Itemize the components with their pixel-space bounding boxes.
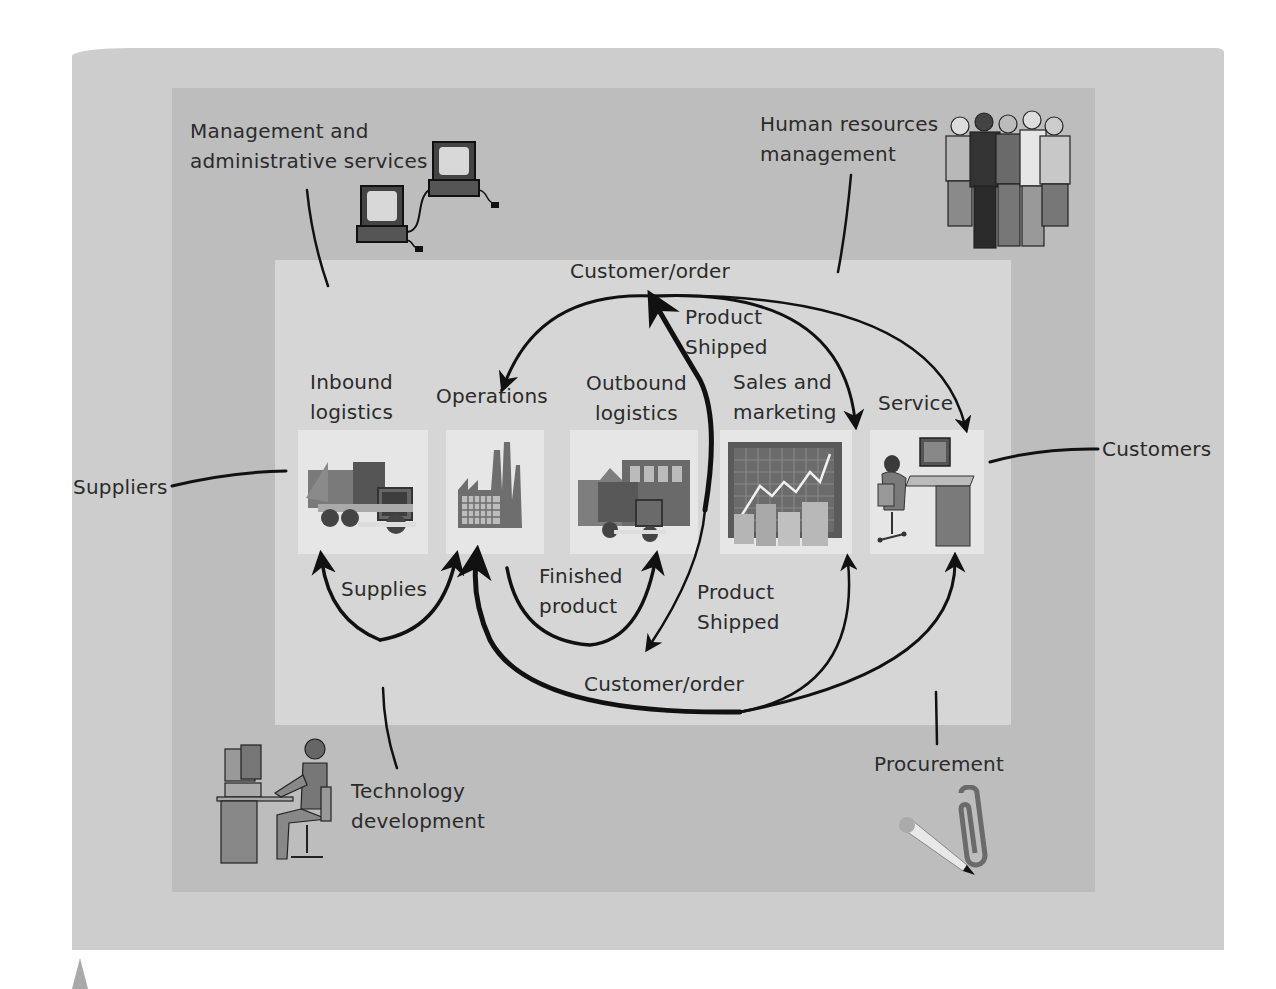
- arrow-order-to-sales-bottom: [740, 562, 849, 712]
- connector-technology: [383, 688, 397, 768]
- connector-management: [307, 190, 328, 286]
- connector-suppliers: [172, 471, 286, 486]
- arrow-product-shipped-down: [650, 510, 705, 645]
- arrow-supplies-inbound: [322, 562, 380, 640]
- arrow-product-shipped-up: [656, 305, 711, 510]
- arrow-supplies-operations: [380, 562, 455, 640]
- connector-customers: [990, 449, 1098, 462]
- connector-procurement: [936, 692, 937, 744]
- flow-arrows-layer: [0, 0, 1276, 989]
- arrow-order-to-operations: [505, 296, 655, 383]
- connector-human-resources: [838, 175, 851, 272]
- arrow-order-to-operations-bottom: [475, 562, 740, 712]
- arrow-order-to-service-bottom: [740, 562, 955, 712]
- arrow-finished-product: [507, 562, 655, 645]
- arrow-order-to-service: [655, 296, 965, 425]
